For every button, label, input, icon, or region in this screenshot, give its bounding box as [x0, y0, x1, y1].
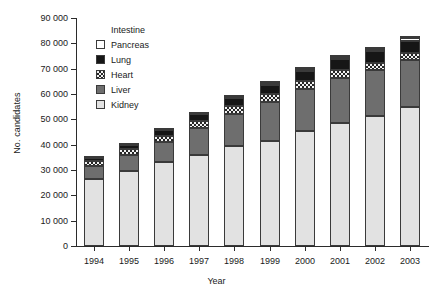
bar-segment-liver: [119, 155, 139, 171]
bar-segment-intestine: [260, 81, 280, 83]
bar-segment-heart: [400, 53, 420, 60]
bar-segment-lung: [295, 71, 315, 80]
y-tick-label: 70 000: [40, 64, 68, 74]
bar-segment-heart: [224, 106, 244, 114]
bar-segment-heart: [295, 81, 315, 89]
y-tick-mark: [71, 94, 76, 95]
bar-segment-heart: [330, 70, 350, 78]
legend-label: Liver: [111, 85, 131, 95]
y-tick-mark: [71, 170, 76, 171]
y-tick-mark: [71, 221, 76, 222]
y-tick-label: 60 000: [40, 89, 68, 99]
x-tick-mark: [199, 246, 200, 251]
bar-2001[interactable]: [330, 18, 350, 246]
bar-segment-pancreas: [189, 112, 209, 114]
bar-2003[interactable]: [400, 18, 420, 246]
y-tick-mark: [71, 145, 76, 146]
bar-segment-pancreas: [365, 49, 385, 52]
y-axis-line: [76, 18, 77, 247]
bar-segment-intestine: [330, 55, 350, 57]
bar-segment-lung: [224, 98, 244, 106]
x-tick-mark: [129, 246, 130, 251]
legend-item-kidney[interactable]: Kidney: [96, 97, 149, 112]
x-tick-mark: [94, 246, 95, 251]
bar-segment-heart: [119, 149, 139, 155]
bar-segment-liver: [224, 114, 244, 146]
bar-segment-lung: [84, 158, 104, 161]
bar-segment-liver: [295, 89, 315, 131]
bar-segment-pancreas: [84, 156, 104, 158]
x-tick-label: 1999: [260, 256, 280, 266]
bar-segment-kidney: [154, 162, 174, 246]
bar-segment-lung: [119, 145, 139, 149]
bar-2000[interactable]: [295, 18, 315, 246]
x-tick-mark: [410, 246, 411, 251]
legend-label: Kidney: [111, 100, 139, 110]
bar-segment-intestine: [365, 47, 385, 49]
bar-segment-liver: [400, 60, 420, 107]
y-tick-mark: [71, 246, 76, 247]
legend-swatch-kidney-icon: [96, 100, 105, 109]
x-tick-label: 2001: [330, 256, 350, 266]
bar-segment-intestine: [400, 36, 420, 38]
bar-segment-kidney: [84, 179, 104, 246]
y-tick-label: 0: [63, 241, 68, 251]
bar-2002[interactable]: [365, 18, 385, 246]
legend-swatch-liver-icon: [96, 85, 105, 94]
bar-segment-liver: [330, 78, 350, 124]
bar-segment-heart: [260, 94, 280, 102]
bar-1998[interactable]: [224, 18, 244, 246]
bar-segment-liver: [84, 166, 104, 179]
bar-segment-kidney: [119, 171, 139, 246]
bar-segment-lung: [365, 51, 385, 62]
y-tick-mark: [71, 69, 76, 70]
x-tick-label: 2003: [400, 256, 420, 266]
x-tick-label: 1995: [119, 256, 139, 266]
legend-item-liver[interactable]: Liver: [96, 82, 149, 97]
legend-item-heart[interactable]: Heart: [96, 67, 149, 82]
legend-item-lung[interactable]: Lung: [96, 52, 149, 67]
x-tick-label: 1997: [189, 256, 209, 266]
bar-segment-heart: [365, 63, 385, 70]
bar-segment-kidney: [189, 155, 209, 246]
bar-segment-pancreas: [260, 83, 280, 85]
bar-segment-pancreas: [154, 128, 174, 130]
y-tick-label: 40 000: [40, 140, 68, 150]
legend-item-intestine[interactable]: Intestine: [96, 22, 149, 37]
bar-1997[interactable]: [189, 18, 209, 246]
bar-segment-heart: [84, 161, 104, 166]
bar-segment-pancreas: [330, 57, 350, 59]
legend-label: Lung: [111, 55, 131, 65]
bar-1999[interactable]: [260, 18, 280, 246]
bar-segment-liver: [189, 128, 209, 155]
bar-segment-intestine: [224, 95, 244, 97]
bar-segment-heart: [189, 121, 209, 129]
bar-segment-lung: [330, 59, 350, 70]
legend-swatch-lung-icon: [96, 55, 105, 64]
x-tick-label: 2002: [365, 256, 385, 266]
x-tick-mark: [340, 246, 341, 251]
x-tick-label: 1994: [84, 256, 104, 266]
legend-swatch-pancreas-icon: [96, 40, 105, 49]
bar-segment-lung: [400, 41, 420, 53]
legend-label: Heart: [111, 70, 133, 80]
legend-swatch-intestine-icon: [96, 25, 105, 34]
y-tick-mark: [71, 119, 76, 120]
y-tick-mark: [71, 43, 76, 44]
bar-segment-kidney: [224, 146, 244, 246]
legend-label: Pancreas: [111, 40, 149, 50]
stacked-bar-chart: No. candidates Year 010 00020 00030 0004…: [0, 0, 433, 296]
legend-swatch-heart-icon: [96, 70, 105, 79]
bar-segment-kidney: [330, 123, 350, 246]
bar-segment-lung: [189, 114, 209, 121]
bar-segment-lung: [154, 130, 174, 136]
bar-segment-intestine: [295, 67, 315, 69]
x-tick-mark: [234, 246, 235, 251]
legend-item-pancreas[interactable]: Pancreas: [96, 37, 149, 52]
x-tick-label: 1998: [224, 256, 244, 266]
bar-1996[interactable]: [154, 18, 174, 246]
bar-segment-kidney: [365, 116, 385, 246]
y-tick-label: 90 000: [40, 13, 68, 23]
y-tick-mark: [71, 195, 76, 196]
bar-segment-heart: [154, 136, 174, 142]
